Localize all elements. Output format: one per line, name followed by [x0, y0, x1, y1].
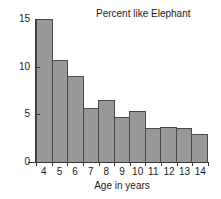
bar	[160, 127, 177, 162]
bar	[52, 60, 69, 162]
x-axis-tick-label: 4	[36, 166, 52, 179]
x-axis-tick-label: 5	[52, 166, 68, 179]
bar	[67, 76, 84, 162]
x-axis-tick-label: 6	[67, 166, 83, 179]
x-axis-line	[28, 162, 209, 163]
y-axis-tick-label: 0	[0, 157, 30, 167]
chart-figure: Percent like Elephant 051015 45678910111…	[0, 0, 221, 199]
plot-area	[36, 19, 208, 162]
bar	[129, 111, 146, 162]
x-axis-tick-label: 8	[99, 166, 115, 179]
bar	[176, 128, 193, 162]
x-axis-tick-label: 14	[192, 166, 208, 179]
y-axis-tick-label: 5	[0, 109, 30, 119]
x-axis-tick-label: 7	[83, 166, 99, 179]
bar-series	[36, 19, 208, 162]
y-axis-tick	[36, 19, 40, 20]
bar	[145, 128, 162, 162]
y-axis-tick	[36, 67, 40, 68]
x-axis-tick-labels: 4567891011121314	[36, 166, 208, 179]
y-axis-line	[35, 19, 36, 163]
bar	[191, 134, 208, 162]
y-axis-tick	[36, 114, 40, 115]
y-axis-tick-label: 15	[0, 14, 30, 24]
x-axis-tick-label: 9	[114, 166, 130, 179]
x-axis-tick	[208, 163, 209, 166]
bar	[114, 117, 131, 162]
x-axis-tick-label: 11	[145, 166, 161, 179]
x-axis-title: Age in years	[36, 180, 208, 192]
x-axis-tick-label: 12	[161, 166, 177, 179]
bar	[36, 19, 53, 162]
bar	[98, 100, 115, 162]
y-axis-tick-label: 10	[0, 62, 30, 72]
x-axis-tick-label: 10	[130, 166, 146, 179]
bar	[83, 108, 100, 162]
x-axis-tick-label: 13	[177, 166, 193, 179]
